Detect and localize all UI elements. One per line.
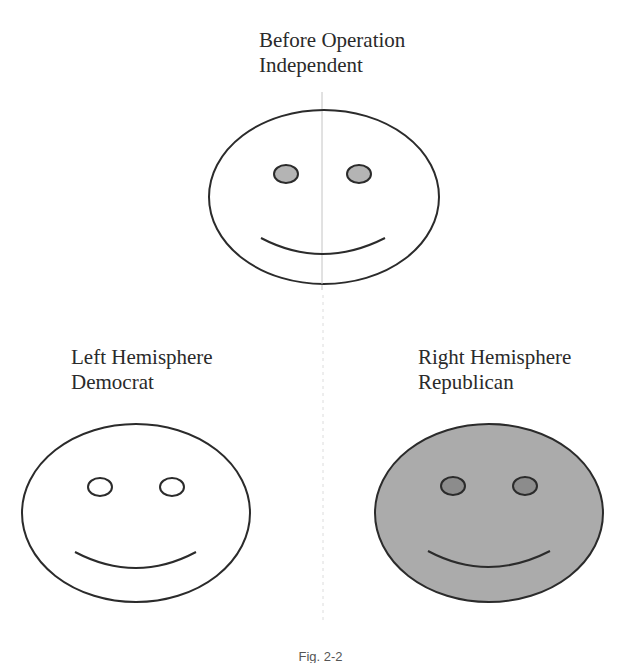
label-line-2: Democrat	[71, 370, 213, 395]
label-line-2: Independent	[259, 53, 405, 78]
figure-canvas: Before Operation Independent Left Hemisp…	[0, 0, 641, 663]
left-eye-icon	[274, 165, 298, 183]
face-before-operation	[209, 110, 439, 284]
label-line-1: Right Hemisphere	[418, 345, 571, 370]
label-line-2: Republican	[418, 370, 571, 395]
smiley-faces-diagram	[0, 0, 641, 663]
face-right-hemisphere	[375, 424, 603, 602]
face-left-hemisphere	[22, 424, 250, 602]
label-line-1: Before Operation	[259, 28, 405, 53]
label-before-operation: Before Operation Independent	[259, 28, 405, 78]
left-eye-icon	[441, 477, 465, 495]
label-line-1: Left Hemisphere	[71, 345, 213, 370]
right-eye-icon	[160, 478, 184, 496]
face-outline	[375, 424, 603, 602]
right-eye-icon	[347, 165, 371, 183]
right-eye-icon	[513, 477, 537, 495]
face-outline	[22, 424, 250, 602]
label-left-hemisphere: Left Hemisphere Democrat	[71, 345, 213, 395]
left-eye-icon	[88, 478, 112, 496]
face-outline	[209, 110, 439, 284]
figure-caption: Fig. 2-2	[0, 649, 641, 663]
label-right-hemisphere: Right Hemisphere Republican	[418, 345, 571, 395]
